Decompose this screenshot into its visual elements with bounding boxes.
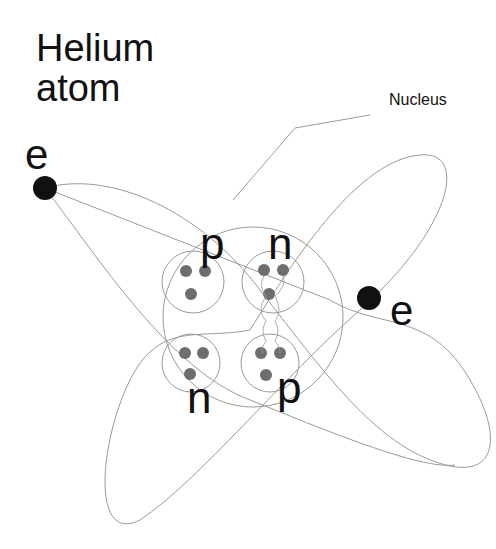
title-line-1: Helium xyxy=(36,28,154,68)
diagram-title: Helium atom xyxy=(36,28,154,108)
electron-label-left: e xyxy=(25,134,48,176)
proton-label-1: p xyxy=(200,222,224,266)
electron-left xyxy=(33,176,57,200)
nucleus-label: Nucleus xyxy=(389,92,447,108)
neutron-label-2: n xyxy=(187,376,211,420)
electron-right xyxy=(357,286,381,310)
gluon-lines xyxy=(261,276,284,353)
title-line-2: atom xyxy=(36,68,154,108)
neutron-label-1: n xyxy=(268,222,292,266)
nucleus-pointer xyxy=(233,115,370,200)
proton-label-2: p xyxy=(277,366,301,410)
electron-label-right: e xyxy=(390,290,413,332)
